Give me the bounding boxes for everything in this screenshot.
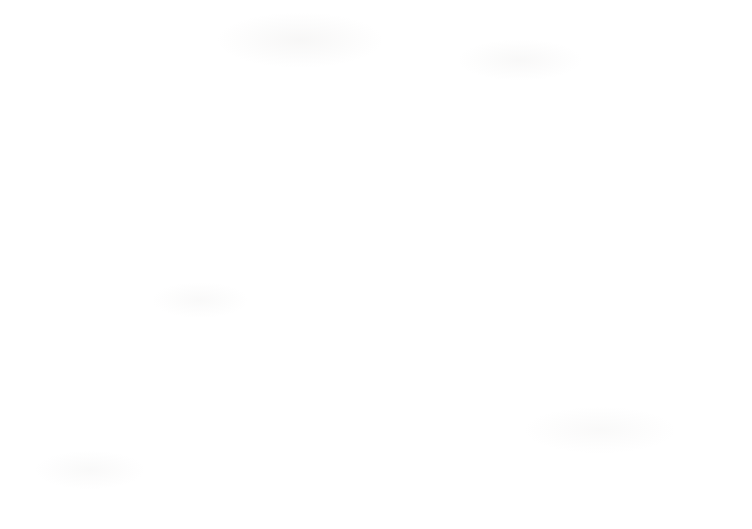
x-tick-label: 1.5π bbox=[233, 336, 264, 355]
point-n1-label: n1 bbox=[187, 361, 201, 380]
point-z1-label: z1 bbox=[127, 210, 139, 229]
curve-curve-2 bbox=[75, 116, 405, 437]
chart-figure: z1n1z2p1 0.5ππ1.5π2π300200100-100-200 ρθ bbox=[0, 0, 752, 529]
x-tick-label: 2π bbox=[289, 336, 309, 355]
point-p1-label: p1 bbox=[287, 90, 302, 109]
point-z2-label: z2 bbox=[228, 210, 240, 229]
y-tick-label: -100 bbox=[52, 396, 83, 415]
point-p1 bbox=[294, 112, 303, 121]
y-tick-label: 200 bbox=[58, 154, 84, 173]
curves bbox=[75, 115, 405, 436]
x-axis-arrow bbox=[397, 317, 415, 331]
polar-response-plot: z1n1z2p1 0.5ππ1.5π2π300200100-100-200 ρθ bbox=[0, 0, 752, 529]
x-tick-label: 0.5π bbox=[132, 336, 163, 355]
y-tick-label: 100 bbox=[58, 235, 84, 254]
y-tick-label: 300 bbox=[58, 74, 84, 93]
drop-lines bbox=[148, 116, 300, 348]
y-axis-label: ρ bbox=[112, 90, 124, 114]
x-tick-label: π bbox=[193, 336, 203, 355]
curve-curve-1 bbox=[75, 115, 405, 435]
x-axis-label: θ bbox=[410, 338, 421, 362]
point-z1 bbox=[143, 231, 152, 240]
y-axis-arrow bbox=[90, 72, 104, 90]
y-tick-label: -200 bbox=[52, 476, 83, 495]
axes bbox=[75, 72, 415, 509]
point-z2 bbox=[244, 231, 253, 240]
